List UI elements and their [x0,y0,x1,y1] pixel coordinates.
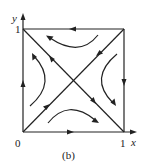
diagonal-up-right-arrow-icon [43,104,50,110]
labels: y 1 0 1 x (b) [11,12,136,162]
y-axis-arrow-icon [21,13,26,20]
y-tick-label: 1 [15,23,21,35]
trajectories [30,35,117,123]
diagonal-up-left-arrow-icon [49,56,55,63]
x-tick-label: 1 [120,137,126,149]
bottom-edge-right-arrow-icon [67,130,74,135]
top-edge-left-arrow-icon [69,27,76,32]
left-edge-up-arrow-icon [21,80,26,87]
phase-portrait-diagram: y 1 0 1 x (b) [0,0,142,168]
left-trajectory [30,56,45,106]
diagonals [23,29,124,132]
figure-caption: (b) [62,149,75,162]
x-axis-arrow-icon [130,130,137,135]
origin-label: 0 [15,137,21,149]
top-trajectory [50,35,98,47]
right-trajectory [101,54,117,103]
x-axis-label: x [130,136,136,148]
right-edge-down-arrow-icon [122,79,127,86]
bottom-trajectory [48,110,95,123]
right-trajectory-arrow-icon [111,99,117,107]
